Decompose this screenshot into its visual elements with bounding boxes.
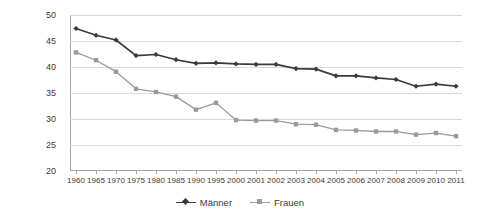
legend-item-maenner[interactable]: Männer [176, 197, 232, 208]
series-line-männer [76, 29, 456, 87]
data-point[interactable] [93, 33, 98, 38]
data-point[interactable] [414, 132, 418, 136]
x-axis-tick-label: 2004 [307, 176, 325, 186]
data-point[interactable] [234, 118, 238, 122]
data-point[interactable] [74, 50, 78, 54]
data-point[interactable] [233, 61, 238, 66]
y-axis-tick-label: 40 [0, 63, 56, 72]
x-axis-tick-label: 2011 [447, 176, 464, 186]
data-point[interactable] [334, 128, 338, 132]
x-axis-tick-label: 2002 [267, 176, 285, 186]
data-point[interactable] [433, 82, 438, 87]
x-axis: 1960196519701975198019851990199520002001… [70, 174, 462, 190]
y-axis-tick-label: 50 [0, 11, 56, 20]
data-point[interactable] [194, 107, 198, 111]
data-point[interactable] [454, 134, 458, 138]
y-axis-tick-label: 20 [0, 167, 56, 176]
legend-swatch-maenner [176, 198, 196, 207]
x-axis-tick-label: 2005 [327, 176, 345, 186]
x-axis-tick-label: 2009 [407, 176, 425, 186]
data-point[interactable] [354, 128, 358, 132]
legend-item-frauen[interactable]: Frauen [250, 197, 304, 208]
x-axis-tick-label: 1995 [207, 176, 225, 186]
data-point[interactable] [214, 101, 218, 105]
data-point[interactable] [394, 129, 398, 133]
data-point[interactable] [254, 118, 258, 122]
series-lines [70, 15, 462, 171]
data-point[interactable] [294, 122, 298, 126]
y-axis: 20253035404550 [0, 0, 70, 219]
data-point[interactable] [193, 61, 198, 66]
x-axis-tick-label: 1985 [167, 176, 185, 186]
data-point[interactable] [114, 69, 118, 73]
data-point[interactable] [413, 84, 418, 89]
x-axis-tick-label: 1965 [87, 176, 105, 186]
y-axis-tick-label: 25 [0, 141, 56, 150]
data-point[interactable] [434, 131, 438, 135]
legend-label-frauen: Frauen [274, 197, 304, 208]
legend-label-maenner: Männer [200, 197, 232, 208]
x-axis-tick-label: 1990 [187, 176, 205, 186]
chart-legend: Männer Frauen [0, 193, 480, 211]
x-axis-tick-label: 2007 [367, 176, 385, 186]
data-point[interactable] [253, 62, 258, 67]
data-point[interactable] [73, 26, 78, 31]
x-axis-tick-label: 2003 [287, 176, 305, 186]
data-point[interactable] [453, 84, 458, 89]
y-axis-tick-label: 45 [0, 37, 56, 46]
x-axis-tick-label: 2000 [227, 176, 245, 186]
line-chart: 20253035404550 1960196519701975198019851… [0, 0, 480, 219]
data-point[interactable] [274, 118, 278, 122]
data-point[interactable] [173, 57, 178, 62]
data-point[interactable] [393, 77, 398, 82]
x-axis-tick-label: 2001 [247, 176, 265, 186]
data-point[interactable] [273, 62, 278, 67]
x-axis-tick-label: 1960 [67, 176, 85, 186]
x-axis-tick-label: 2006 [347, 176, 365, 186]
x-axis-tick-label: 1980 [147, 176, 165, 186]
data-point[interactable] [293, 66, 298, 71]
data-point[interactable] [333, 73, 338, 78]
x-axis-tick-label: 1975 [127, 176, 145, 186]
data-point[interactable] [153, 52, 158, 57]
legend-swatch-frauen [250, 198, 270, 207]
x-axis-tick-label: 2008 [387, 176, 405, 186]
data-point[interactable] [373, 75, 378, 80]
data-point[interactable] [313, 66, 318, 71]
data-point[interactable] [374, 129, 378, 133]
data-point[interactable] [213, 60, 218, 65]
data-point[interactable] [353, 73, 358, 78]
plot-area [70, 15, 462, 171]
data-point[interactable] [134, 87, 138, 91]
y-axis-tick-label: 35 [0, 89, 56, 98]
y-axis-tick-label: 30 [0, 115, 56, 124]
data-point[interactable] [154, 90, 158, 94]
x-axis-tick-label: 2010 [427, 176, 445, 186]
data-point[interactable] [94, 58, 98, 62]
data-point[interactable] [314, 123, 318, 127]
data-point[interactable] [174, 94, 178, 98]
x-axis-tick-label: 1970 [107, 176, 125, 186]
